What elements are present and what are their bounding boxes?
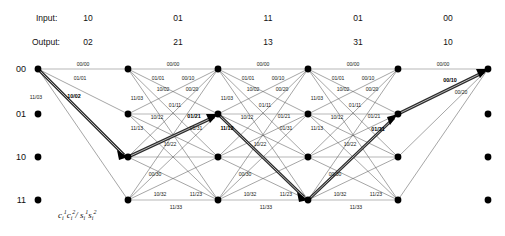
- node-s1-00: [125, 66, 132, 73]
- label-s1-f1: 11/13: [131, 125, 144, 131]
- node-s2-10: [215, 154, 222, 161]
- label-s0-00-10: 10/02: [67, 93, 81, 99]
- edge-s4-11-00: [398, 69, 488, 200]
- label-s4-00-20: 00/20: [455, 89, 468, 95]
- label-s0-00-00: 00/00: [77, 61, 90, 67]
- label-s3-a2: 00/10: [362, 75, 375, 81]
- label-s1-b2: 00/20: [186, 86, 199, 92]
- label-s2-a1: 01/01: [242, 75, 255, 81]
- node-s2-01: [215, 111, 222, 118]
- label-s1-j1: 11/33: [170, 204, 183, 210]
- label-s0-00-11: 11/03: [30, 94, 43, 100]
- label-s2-a2: 00/10: [272, 75, 285, 81]
- label-s3-g1: 10/22: [344, 141, 357, 147]
- label-s2-f2: 01/31: [280, 125, 293, 131]
- label-s3-top: 00/00: [347, 61, 360, 67]
- label-s1-g1: 10/22: [164, 141, 177, 147]
- node-s3-11: [305, 197, 312, 204]
- survivor-seg-1-core: [128, 117, 214, 157]
- input-value-2: 11: [264, 13, 273, 23]
- input-value-1: 01: [173, 13, 183, 23]
- node-s4-11: [395, 197, 402, 204]
- label-s1-a1: 01/01: [152, 75, 165, 81]
- survivor-seg-4-core: [398, 72, 484, 114]
- label-s3-b1: 10/02: [337, 86, 350, 92]
- trellis-edges: [38, 69, 488, 202]
- label-s1-b1: 10/02: [157, 86, 170, 92]
- label-s1-a2: 00/10: [182, 75, 195, 81]
- state-label-01: 01: [16, 109, 26, 119]
- trellis-diagram-figure: Input: Output: 10 01 11 01 00 02 21 13 3…: [0, 0, 505, 236]
- node-s4-10: [395, 154, 402, 161]
- label-s3-a1: 01/01: [332, 75, 345, 81]
- input-value-4: 00: [443, 13, 453, 23]
- label-s3-f2: 01/31: [371, 126, 385, 132]
- node-s4-01: [395, 111, 402, 118]
- edge-labels: 00/00 01/01 10/02 11/03 00/00 01/01 00/1…: [30, 61, 468, 210]
- label-s1-e1: 10/12: [151, 114, 164, 120]
- label-s3-c1: 11/03: [311, 95, 324, 101]
- node-s5-11: [485, 197, 492, 204]
- label-s2-b2: 00/20: [276, 86, 289, 92]
- trellis-svg: Input: Output: 10 01 11 01 00 02 21 13 3…: [0, 0, 505, 236]
- output-value-0: 02: [83, 37, 93, 47]
- node-s5-01: [485, 111, 492, 118]
- output-value-4: 10: [443, 37, 453, 47]
- node-s0-01: [35, 111, 42, 118]
- label-s1-i2: 11/23: [190, 191, 203, 197]
- node-s3-01: [305, 111, 312, 118]
- label-s3-i1: 10/32: [334, 191, 347, 197]
- label-s2-d1: 01/11: [259, 102, 272, 108]
- label-s3-j1: 11/33: [350, 204, 363, 210]
- state-label-10: 10: [16, 152, 26, 162]
- caption-formula: ci1ci2/ si1si2: [58, 209, 96, 221]
- output-value-2: 13: [263, 37, 273, 47]
- label-s1-top: 00/00: [167, 61, 180, 67]
- label-s2-b1: 10/02: [247, 86, 260, 92]
- label-s1-e2: 01/21: [187, 113, 201, 119]
- label-s1-h1: 00/30: [149, 171, 162, 177]
- label-s3-h1: 00/30: [329, 171, 342, 177]
- label-s3-e1: 10/12: [331, 114, 344, 120]
- label-s2-i1: 10/32: [244, 191, 257, 197]
- label-s1-d1: 01/11: [169, 102, 182, 108]
- node-s4-00: [395, 66, 402, 73]
- node-s3-00: [305, 66, 312, 73]
- node-s2-00: [215, 66, 222, 73]
- label-s1-f2: 01/31: [190, 125, 203, 131]
- state-label-11: 11: [17, 195, 26, 205]
- label-s3-f1: 11/13: [311, 125, 324, 131]
- node-s1-10: [125, 154, 132, 161]
- node-s5-00: [485, 66, 492, 73]
- output-row-label: Output:: [32, 37, 60, 47]
- label-s1-i1: 10/32: [154, 191, 167, 197]
- node-s3-10: [305, 154, 312, 161]
- node-s0-00: [35, 66, 42, 73]
- label-s0-00-01: 01/01: [74, 75, 87, 81]
- input-value-3: 01: [353, 13, 363, 23]
- label-s2-f1: 11/13: [220, 125, 233, 131]
- edge-s0-00-11: [38, 69, 128, 200]
- label-s2-g1: 10/22: [254, 141, 267, 147]
- node-s1-01: [125, 111, 132, 118]
- node-s1-11: [125, 197, 132, 204]
- label-s2-j1: 11/33: [260, 204, 273, 210]
- label-s2-c1: 11/03: [221, 95, 234, 101]
- label-s3-d1: 01/11: [349, 102, 362, 108]
- node-s5-10: [485, 154, 492, 161]
- label-s2-e2: 01/21: [278, 113, 291, 119]
- label-s2-h1: 00/30: [239, 171, 252, 177]
- node-s2-11: [215, 197, 222, 204]
- label-s2-top: 00/00: [257, 61, 270, 67]
- input-value-0: 10: [83, 13, 93, 23]
- label-s3-i2: 11/23: [370, 191, 383, 197]
- output-value-1: 21: [173, 37, 183, 47]
- state-label-00: 00: [16, 64, 26, 74]
- node-s0-10: [35, 154, 42, 161]
- label-s2-i2: 11/23: [280, 191, 293, 197]
- survivor-seg-0-core: [38, 69, 124, 155]
- label-s4-bold-00-10: 00/10: [443, 77, 457, 83]
- label-s3-b2: 00/20: [366, 86, 379, 92]
- input-row-label: Input:: [36, 13, 57, 23]
- label-s4-top: 00/00: [437, 61, 450, 67]
